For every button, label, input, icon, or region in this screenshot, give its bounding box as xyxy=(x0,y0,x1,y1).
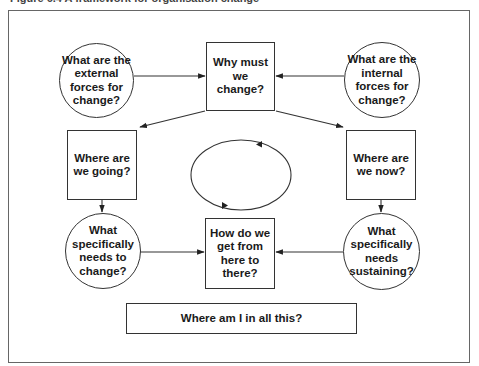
node-needs-sustaining: What specifically needs sustaining? xyxy=(343,213,420,290)
node-external-forces: What are the external forces for change? xyxy=(59,43,134,118)
node-why-must-we-change-label: Why must we change? xyxy=(207,56,274,97)
node-internal-forces-label: What are the internal forces for change? xyxy=(345,53,419,107)
node-why-must-we-change: Why must we change? xyxy=(206,42,275,111)
node-how-do-we-get-there-label: How do we get from here to there? xyxy=(206,227,274,281)
node-external-forces-label: What are the external forces for change? xyxy=(60,54,133,108)
node-how-do-we-get-there: How do we get from here to there? xyxy=(205,218,275,289)
node-where-are-we-going-label: Where are we going? xyxy=(68,152,136,179)
node-needs-sustaining-label: What specifically needs sustaining? xyxy=(344,225,419,279)
node-where-are-we-now-label: Where are we now? xyxy=(347,152,415,179)
node-needs-to-change: What specifically needs to change? xyxy=(65,213,141,289)
node-where-am-i-label: Where am I in all this? xyxy=(179,312,304,326)
node-where-am-i: Where am I in all this? xyxy=(126,303,357,334)
node-where-are-we-now: Where are we now? xyxy=(346,130,416,200)
node-where-are-we-going: Where are we going? xyxy=(67,130,137,200)
node-internal-forces: What are the internal forces for change? xyxy=(344,42,420,118)
figure-title: Figure 6.4 A framework for organisation … xyxy=(10,0,259,4)
node-needs-to-change-label: What specifically needs to change? xyxy=(66,224,140,278)
